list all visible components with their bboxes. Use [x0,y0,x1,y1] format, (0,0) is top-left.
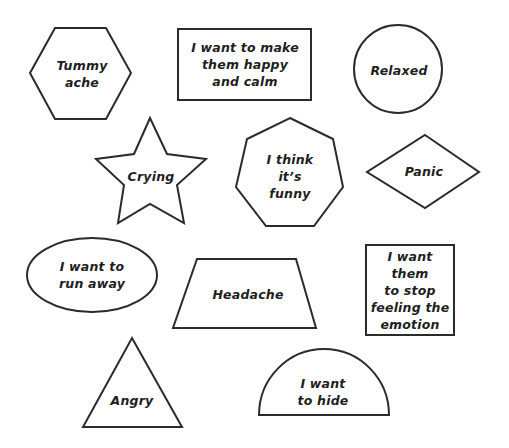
label-think-funny: I think it’s funny [267,151,314,202]
label-want-to-hide: I want to hide [298,375,349,409]
label-make-them-happy: I want to make them happy and calm [191,39,299,90]
label-crying: Crying [128,168,175,185]
label-tummy-ache: Tummy ache [56,57,107,91]
label-headache: Headache [212,286,283,303]
triangle-shape [83,338,182,427]
label-panic: Panic [405,163,443,180]
label-relaxed: Relaxed [370,62,427,79]
label-angry: Angry [111,392,154,409]
label-run-away: I want to run away [59,258,125,292]
label-stop-feeling: I want them to stop feeling the emotion [371,248,450,333]
